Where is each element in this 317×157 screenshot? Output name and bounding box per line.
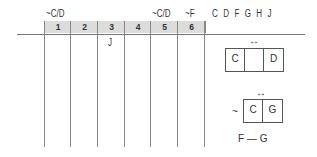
bottom-rule-label: F — G (238, 133, 267, 144)
col-line (97, 21, 98, 147)
row-mark-j: J (108, 37, 112, 48)
col-header-4: 4 (124, 21, 151, 33)
col-header-5: 5 (150, 21, 178, 33)
col-line (124, 21, 125, 147)
baseline-rule (17, 34, 305, 35)
box1-cell: C (226, 49, 245, 71)
top-label-col6: ~F (185, 8, 195, 19)
box2-prefix: ~ (232, 106, 238, 117)
chord-box-2: C G (243, 99, 283, 123)
box2-cell: G (263, 100, 282, 122)
top-label-col1: ~C/D (46, 8, 64, 19)
box1-cell: D (264, 49, 283, 71)
col-line (177, 21, 178, 147)
double-arrow-icon: ↔ (249, 35, 259, 46)
box1-cell (245, 49, 264, 71)
chord-box-1: C D (225, 48, 284, 72)
col-line (70, 21, 71, 147)
col-header-3: 3 (97, 21, 125, 33)
double-arrow-icon: ↔ (256, 87, 266, 98)
col-header-1: 1 (44, 21, 71, 33)
col-header-6: 6 (177, 21, 206, 33)
col-line (44, 21, 45, 147)
letters-row: C D F G H J (212, 8, 272, 19)
col-header-2: 2 (70, 21, 98, 33)
top-label-col5: ~C/D (152, 8, 170, 19)
box2-cell: C (244, 100, 263, 122)
col-line (204, 21, 205, 147)
col-line (150, 21, 151, 147)
